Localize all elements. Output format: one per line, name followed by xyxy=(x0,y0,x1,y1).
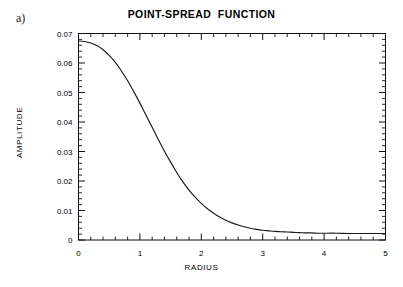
psf-curve xyxy=(79,41,386,234)
tick-label: 0.07 xyxy=(57,30,73,39)
plot-frame xyxy=(79,34,386,241)
tick-label: 3 xyxy=(260,249,265,258)
figure-panel: a) POINT-SPREAD FUNCTION AMPLITUDE RADIU… xyxy=(0,0,403,287)
tick-label: 1 xyxy=(138,249,143,258)
tick-label: 0 xyxy=(68,236,73,245)
tick-label: 0.02 xyxy=(57,177,73,186)
tick-label: 2 xyxy=(199,249,204,258)
axis-tick-labels: 01234500.010.020.030.040.050.060.07 xyxy=(57,30,388,259)
tick-label: 0.06 xyxy=(57,59,73,68)
tick-label: 0.03 xyxy=(57,148,73,157)
axis-ticks xyxy=(79,34,386,241)
tick-label: 0.01 xyxy=(57,207,73,216)
tick-label: 0.05 xyxy=(57,89,73,98)
tick-label: 0.04 xyxy=(57,118,73,127)
tick-label: 5 xyxy=(383,249,388,258)
tick-label: 0 xyxy=(76,249,81,258)
tick-label: 4 xyxy=(322,249,327,258)
plot-canvas: 01234500.010.020.030.040.050.060.07 xyxy=(0,0,403,287)
